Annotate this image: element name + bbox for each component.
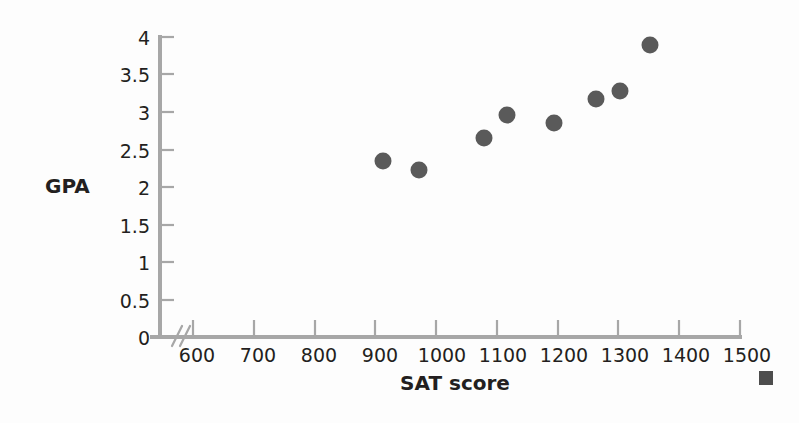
y-tick-label-0_5: 0.5 bbox=[120, 290, 150, 312]
x-tick-label-1300: 1300 bbox=[601, 344, 649, 366]
x-axis-tick-labels: 600 700 800 900 1000 1100 1200 1300 1400… bbox=[179, 344, 771, 366]
data-point bbox=[546, 115, 563, 132]
y-tick-label-1: 1 bbox=[138, 252, 150, 274]
data-point bbox=[612, 83, 629, 100]
x-tick-label-1500: 1500 bbox=[723, 344, 771, 366]
data-point bbox=[642, 37, 659, 54]
x-tick-label-600: 600 bbox=[179, 344, 215, 366]
x-tick-label-1100: 1100 bbox=[479, 344, 527, 366]
chart-page: 4 3.5 3 2.5 2 1.5 1 0.5 0 600 700 800 bbox=[0, 0, 799, 423]
x-tick-label-1000: 1000 bbox=[418, 344, 466, 366]
y-axis-tick-labels: 4 3.5 3 2.5 2 1.5 1 0.5 0 bbox=[120, 27, 150, 349]
y-tick-label-3: 3 bbox=[138, 102, 150, 124]
x-tick-label-800: 800 bbox=[301, 344, 337, 366]
x-tick-label-1400: 1400 bbox=[662, 344, 710, 366]
data-point bbox=[588, 91, 605, 108]
y-tick-label-4: 4 bbox=[138, 27, 150, 49]
data-point-series bbox=[375, 37, 659, 179]
data-point bbox=[499, 107, 516, 124]
x-axis-title: SAT score bbox=[400, 371, 510, 395]
corner-square-icon bbox=[759, 371, 773, 385]
scatter-plot: 4 3.5 3 2.5 2 1.5 1 0.5 0 600 700 800 bbox=[0, 0, 799, 423]
data-point bbox=[375, 153, 392, 170]
x-tick-label-900: 900 bbox=[362, 344, 398, 366]
x-tick-label-700: 700 bbox=[240, 344, 276, 366]
y-tick-label-2_5: 2.5 bbox=[120, 140, 150, 162]
data-point bbox=[476, 130, 493, 147]
y-axis-title: GPA bbox=[45, 174, 90, 198]
y-tick-label-0: 0 bbox=[138, 327, 150, 349]
x-tick-label-1200: 1200 bbox=[540, 344, 588, 366]
y-tick-label-1_5: 1.5 bbox=[120, 215, 150, 237]
y-axis-ticks bbox=[160, 37, 174, 337]
y-tick-label-3_5: 3.5 bbox=[120, 64, 150, 86]
x-axis-ticks bbox=[193, 320, 740, 337]
data-point bbox=[411, 162, 428, 179]
y-tick-label-2: 2 bbox=[138, 177, 150, 199]
